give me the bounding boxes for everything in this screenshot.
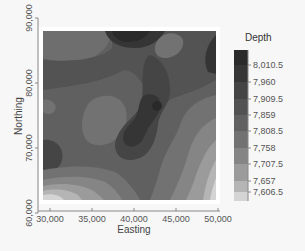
legend-label-5: 7,758 bbox=[253, 143, 276, 153]
x-tick-50000: 50,000 bbox=[204, 214, 232, 224]
colorbar-legend: Depth 8,010.5 7,960 7,909.5 7,859 7,808.… bbox=[234, 32, 283, 201]
x-axis-title: Easting bbox=[117, 224, 150, 235]
legend-label-8: 7,606.5 bbox=[253, 187, 283, 197]
y-tick-90000: 90,000 bbox=[24, 4, 34, 32]
legend-label-4: 7,808.5 bbox=[253, 126, 283, 136]
contour-plot-area bbox=[43, 31, 216, 200]
x-tick-45000: 45,000 bbox=[162, 214, 190, 224]
legend-label-7: 7,657 bbox=[253, 176, 276, 186]
y-axis: 90,000 80,000 70,000 60,000 Northing bbox=[13, 4, 38, 227]
x-tick-40000: 40,000 bbox=[120, 214, 148, 224]
x-axis: 30,000 35,000 40,000 45,000 50,000 Easti… bbox=[36, 208, 232, 235]
y-tick-80000: 80,000 bbox=[24, 69, 34, 97]
y-axis-title: Northing bbox=[13, 97, 24, 135]
contour-chart: 90,000 80,000 70,000 60,000 Northing 30,… bbox=[0, 0, 305, 251]
x-tick-35000: 35,000 bbox=[78, 214, 106, 224]
x-tick-30000: 30,000 bbox=[36, 214, 64, 224]
legend-label-3: 7,859 bbox=[253, 110, 276, 120]
legend-label-2: 7,909.5 bbox=[253, 94, 283, 104]
legend-title: Depth bbox=[245, 32, 272, 43]
legend-label-1: 7,960 bbox=[253, 77, 276, 87]
y-tick-60000: 60,000 bbox=[24, 199, 34, 227]
y-tick-70000: 70,000 bbox=[24, 134, 34, 162]
legend-label-0: 8,010.5 bbox=[253, 60, 283, 70]
legend-label-6: 7,707.5 bbox=[253, 159, 283, 169]
